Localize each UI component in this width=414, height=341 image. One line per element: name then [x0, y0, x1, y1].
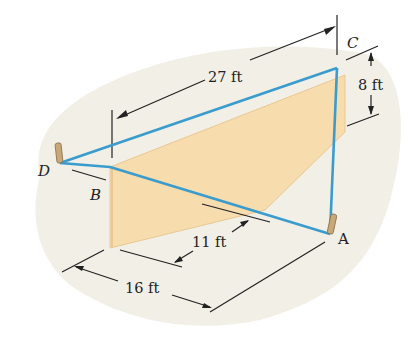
- dimension-label-16ft: 16 ft: [125, 280, 159, 296]
- cable-wall-diagram: D B C A 27 ft 8 ft 11 ft 16 ft: [0, 0, 414, 341]
- dimension-label-11ft: 11 ft: [192, 234, 226, 250]
- diagram-canvas: D B C A 27 ft 8 ft 11 ft 16 ft: [0, 0, 414, 341]
- point-label-b: B: [89, 186, 101, 204]
- dimension-label-27ft: 27 ft: [208, 69, 242, 85]
- point-label-a: A: [337, 230, 349, 248]
- dimension-label-8ft: 8 ft: [358, 77, 383, 93]
- point-label-d: D: [37, 162, 50, 180]
- point-label-c: C: [347, 34, 359, 52]
